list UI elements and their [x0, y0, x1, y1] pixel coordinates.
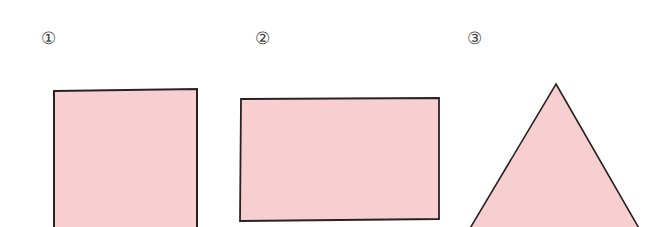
rectangle-shape	[240, 98, 439, 221]
square-shape	[54, 89, 197, 227]
triangle-shape	[469, 84, 640, 227]
shapes-canvas	[0, 0, 649, 227]
